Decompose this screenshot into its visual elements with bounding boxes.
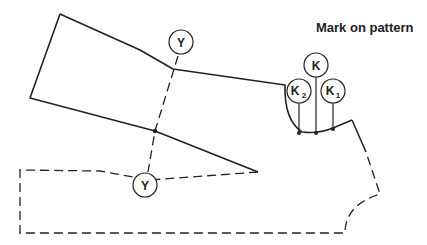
pattern-diagram: Y Y K K 2 K 1: [0, 0, 427, 245]
lower-pattern-dashed: [20, 152, 380, 233]
side-seam-solid: [352, 120, 366, 152]
k2-dot: [297, 131, 301, 135]
y-top-label: Y: [177, 36, 185, 50]
k1-label: K: [326, 84, 335, 98]
k-label: K: [312, 59, 321, 73]
y-bottom-label: Y: [141, 179, 149, 193]
k2-subscript: 2: [302, 91, 307, 100]
k1-dot: [331, 127, 335, 131]
k2-label: K: [291, 84, 300, 98]
k1-subscript: 1: [336, 91, 341, 100]
y-line-dashed: [148, 56, 178, 172]
k-dot: [314, 131, 318, 135]
y-dot: [153, 129, 157, 133]
